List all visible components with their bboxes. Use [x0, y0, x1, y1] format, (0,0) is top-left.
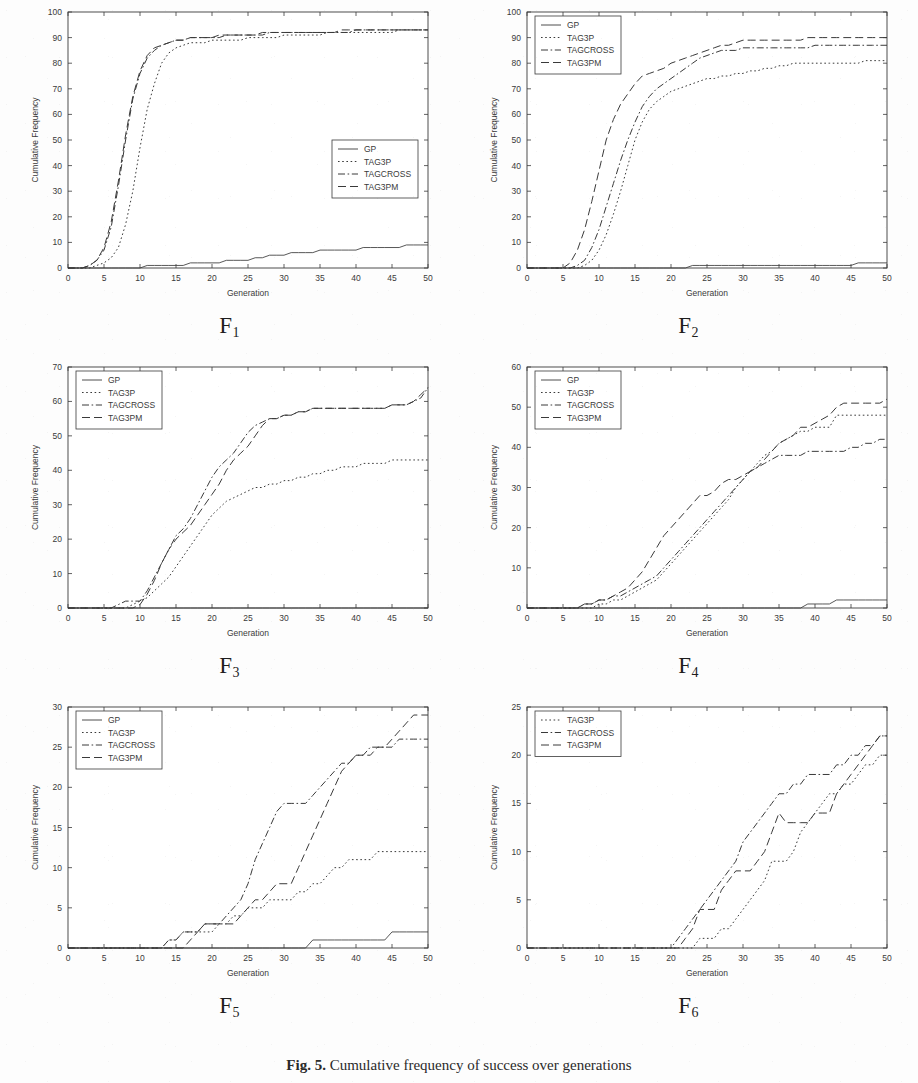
chart-f2: 0510152025303540455001020304050607080901… — [479, 0, 899, 310]
svg-text:45: 45 — [387, 273, 397, 283]
svg-text:30: 30 — [511, 483, 521, 493]
legend-label-tagcross: TAGCROSS — [567, 400, 614, 410]
svg-text:25: 25 — [511, 702, 521, 712]
legend-label-gp: GP — [567, 375, 580, 385]
svg-text:20: 20 — [511, 750, 521, 760]
legend-f6: TAG3PTAGCROSSTAG3PM — [535, 711, 621, 757]
svg-text:10: 10 — [52, 569, 62, 579]
svg-text:50: 50 — [423, 953, 433, 963]
svg-text:20: 20 — [666, 273, 676, 283]
svg-text:30: 30 — [738, 613, 748, 623]
svg-text:Cumulative Frequency: Cumulative Frequency — [489, 444, 499, 530]
subplot-f5: 05101520253035404550051015202530Generati… — [0, 695, 459, 1040]
svg-text:50: 50 — [511, 402, 521, 412]
svg-text:70: 70 — [52, 362, 62, 372]
svg-text:50: 50 — [52, 431, 62, 441]
svg-text:20: 20 — [666, 953, 676, 963]
legend-label-tag3p: TAG3P — [567, 715, 595, 725]
svg-text:0: 0 — [57, 263, 62, 273]
svg-text:10: 10 — [511, 237, 521, 247]
svg-text:10: 10 — [135, 613, 145, 623]
svg-text:Generation: Generation — [685, 968, 727, 978]
svg-text:25: 25 — [52, 742, 62, 752]
svg-text:35: 35 — [315, 273, 325, 283]
svg-text:40: 40 — [511, 442, 521, 452]
svg-text:0: 0 — [65, 273, 70, 283]
svg-text:Generation: Generation — [226, 968, 268, 978]
plot-area-f1: 0510152025303540455001020304050607080901… — [20, 0, 440, 310]
svg-text:Cumulative Frequency: Cumulative Frequency — [30, 97, 40, 183]
subplot-label-f3: F3 — [219, 654, 239, 677]
legend-label-tag3p: TAG3P — [108, 388, 136, 398]
svg-text:Generation: Generation — [226, 628, 268, 638]
svg-text:40: 40 — [351, 273, 361, 283]
legend-label-tag3p: TAG3P — [567, 33, 595, 43]
legend-label-tagcross: TAGCROSS — [567, 45, 614, 55]
chart-f4: 051015202530354045500102030405060Generat… — [479, 355, 899, 650]
svg-text:10: 10 — [135, 953, 145, 963]
svg-text:Generation: Generation — [685, 288, 727, 298]
svg-text:20: 20 — [666, 613, 676, 623]
subplot-f3: 05101520253035404550010203040506070Gener… — [0, 355, 459, 695]
legend-label-tag3pm: TAG3PM — [567, 413, 601, 423]
svg-text:10: 10 — [52, 863, 62, 873]
legend-label-tag3pm: TAG3PM — [567, 740, 601, 750]
svg-text:0: 0 — [57, 943, 62, 953]
legend-label-tag3p: TAG3P — [364, 157, 392, 167]
svg-text:50: 50 — [882, 613, 892, 623]
svg-text:15: 15 — [52, 823, 62, 833]
subplot-f1: 0510152025303540455001020304050607080901… — [0, 0, 459, 355]
svg-text:10: 10 — [52, 237, 62, 247]
svg-text:35: 35 — [315, 953, 325, 963]
svg-text:25: 25 — [702, 953, 712, 963]
legend-label-tagcross: TAGCROSS — [364, 169, 411, 179]
legend-label-tag3pm: TAG3PM — [567, 58, 601, 68]
svg-text:60: 60 — [52, 396, 62, 406]
legend-label-gp: GP — [567, 20, 580, 30]
svg-text:10: 10 — [135, 273, 145, 283]
chart-f1: 0510152025303540455001020304050607080901… — [20, 0, 440, 310]
svg-text:60: 60 — [511, 109, 521, 119]
plot-area-f3: 05101520253035404550010203040506070Gener… — [20, 355, 440, 650]
svg-text:100: 100 — [506, 7, 520, 17]
svg-text:20: 20 — [511, 523, 521, 533]
svg-text:0: 0 — [516, 263, 521, 273]
subplot-label-f1: F1 — [219, 314, 239, 337]
svg-text:45: 45 — [846, 613, 856, 623]
svg-text:Cumulative Frequency: Cumulative Frequency — [30, 784, 40, 870]
svg-text:15: 15 — [630, 953, 640, 963]
svg-text:45: 45 — [387, 613, 397, 623]
svg-text:35: 35 — [774, 273, 784, 283]
svg-text:10: 10 — [594, 273, 604, 283]
svg-text:15: 15 — [630, 273, 640, 283]
chart-f3: 05101520253035404550010203040506070Gener… — [20, 355, 440, 650]
svg-text:5: 5 — [560, 953, 565, 963]
svg-text:15: 15 — [171, 613, 181, 623]
legend-label-tag3pm: TAG3PM — [364, 182, 398, 192]
svg-text:30: 30 — [279, 953, 289, 963]
svg-text:5: 5 — [101, 613, 106, 623]
svg-text:10: 10 — [594, 953, 604, 963]
svg-text:45: 45 — [846, 953, 856, 963]
svg-text:90: 90 — [511, 33, 521, 43]
svg-text:5: 5 — [560, 613, 565, 623]
svg-text:10: 10 — [511, 563, 521, 573]
svg-text:5: 5 — [516, 895, 521, 905]
svg-text:0: 0 — [516, 943, 521, 953]
svg-text:10: 10 — [511, 847, 521, 857]
svg-text:15: 15 — [630, 613, 640, 623]
svg-text:45: 45 — [846, 273, 856, 283]
svg-text:30: 30 — [52, 702, 62, 712]
svg-text:30: 30 — [52, 186, 62, 196]
svg-text:5: 5 — [57, 903, 62, 913]
figure-caption-text: Cumulative frequency of success over gen… — [330, 1057, 632, 1073]
svg-text:40: 40 — [511, 161, 521, 171]
subplot-label-f4: F4 — [678, 654, 698, 677]
svg-text:40: 40 — [351, 953, 361, 963]
legend-label-tag3pm: TAG3PM — [108, 413, 142, 423]
svg-text:30: 30 — [511, 186, 521, 196]
plot-area-f4: 051015202530354045500102030405060Generat… — [479, 355, 899, 650]
svg-text:35: 35 — [774, 953, 784, 963]
svg-text:30: 30 — [279, 613, 289, 623]
svg-text:50: 50 — [52, 135, 62, 145]
